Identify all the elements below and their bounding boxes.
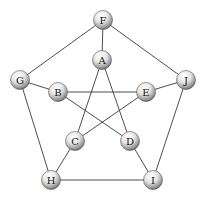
node-h: H [42,171,61,190]
edge-f-j [103,20,186,80]
edge-f-g [20,20,103,80]
petersen-graph-diagram: FAGJBECDHI [0,0,205,201]
node-b: B [49,83,68,102]
node-label: H [47,175,56,186]
node-label: B [54,87,61,98]
node-f: F [94,11,113,30]
node-label: J [183,75,188,86]
edges-group [20,20,186,180]
node-label: C [71,136,79,147]
node-g: G [11,71,30,90]
node-i: I [144,171,163,190]
node-c: C [66,132,85,151]
node-e: E [137,83,156,102]
edge-j-i [153,80,186,180]
node-label: F [100,15,107,26]
node-d: D [121,132,140,151]
node-label: I [151,175,155,186]
node-label: E [142,87,149,98]
node-a: A [93,51,112,70]
node-label: G [16,75,24,86]
edge-g-h [20,80,51,180]
edge-a-c [75,60,102,141]
edge-a-d [102,60,130,141]
node-j: J [177,71,196,90]
node-label: A [97,55,106,66]
node-label: D [126,136,134,147]
